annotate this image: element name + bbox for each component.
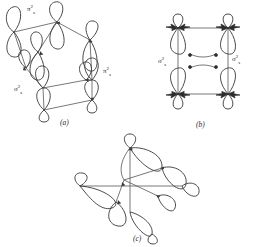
panel-b-bond-frame: [178, 28, 228, 94]
panel-b-label-sigma-2s-left: σ2s: [158, 56, 166, 67]
panel-b-filled-lobes: [166, 24, 240, 98]
figure-root: π2s σ2s π2s (a): [0, 0, 256, 247]
panel-b-label-sigma-2s-right: σ2s: [232, 54, 240, 65]
caption-c: (c): [133, 234, 141, 243]
panel-a-arrowheads: [23, 21, 95, 100]
panel-a-label-sigma-2s-left: σ2s: [14, 84, 22, 95]
panel-a-diagram: [0, 0, 132, 120]
panel-a-label-pi-2s-right: π2s: [103, 66, 111, 77]
panel-a-orbital-lobes: [6, 2, 98, 122]
panel-c-diagram: [62, 140, 202, 240]
caption-b: (b): [196, 120, 205, 129]
panel-c-orbital-lobes: [75, 134, 199, 244]
panel-a-label-pi-2s-top: π2s: [27, 4, 35, 15]
caption-a: (a): [60, 118, 69, 127]
panel-b-diagram: [166, 14, 242, 114]
